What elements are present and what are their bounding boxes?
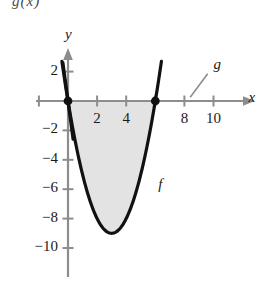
x-axis-label: x	[248, 89, 255, 106]
axes	[36, 48, 255, 277]
y-axis-arrow	[63, 48, 73, 60]
y-tick-label: −2	[14, 120, 58, 137]
curve-label-f: f	[158, 176, 162, 193]
y-tick-label: −4	[14, 150, 58, 167]
x-tick-label: 2	[83, 110, 111, 127]
y-axis-label: y	[65, 26, 72, 43]
intersection-dot	[151, 97, 160, 106]
y-tick-label: −8	[14, 209, 58, 226]
curve-label-g: g	[214, 56, 222, 73]
x-tick-label: 4	[112, 110, 140, 127]
intersection-dot	[64, 97, 73, 106]
y-tick-label: 2	[14, 62, 58, 79]
x-tick-label: 8	[170, 110, 198, 127]
y-tick-label: −10	[14, 238, 58, 255]
x-tick-label: 10	[200, 110, 228, 127]
y-tick-label: −6	[14, 179, 58, 196]
g-label-leader-line	[190, 74, 207, 98]
